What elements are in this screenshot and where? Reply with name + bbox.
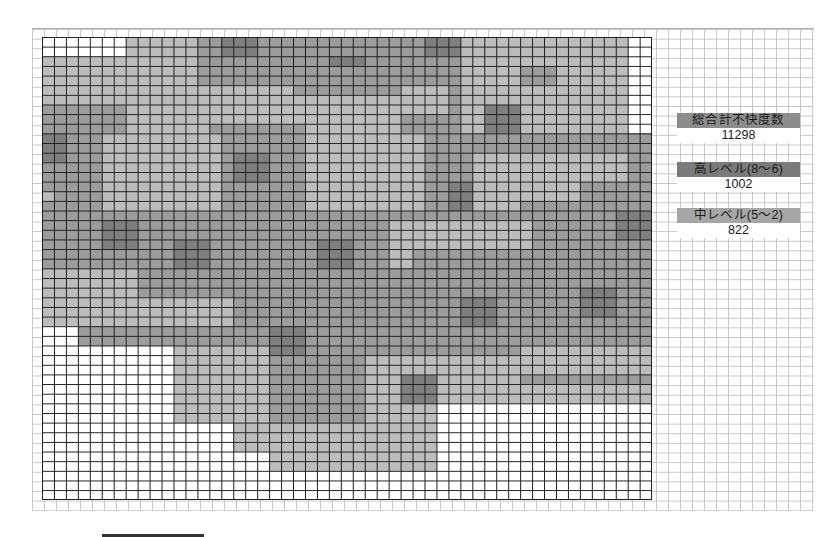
- stat-label-mid: 中レベル(5〜2): [677, 208, 800, 223]
- heatmap-zone: [317, 240, 353, 269]
- heatmap-zone: [401, 85, 449, 114]
- heatmap-zone: [437, 404, 652, 500]
- heatmap-zone: [389, 220, 533, 249]
- heatmap-zone: [102, 220, 138, 249]
- heatmap-zone: [42, 105, 102, 134]
- heatmap-zone: [233, 452, 269, 500]
- heatmap-zone: [42, 37, 126, 56]
- heatmap-zone: [42, 346, 174, 500]
- heatmap-zone: [42, 191, 54, 201]
- stat-label-total: 総合計不快度数: [677, 113, 800, 128]
- heatmap-zone: [126, 85, 210, 133]
- heatmap-zone: [102, 133, 222, 210]
- stat-value-mid: 822: [677, 223, 800, 238]
- heatmap-zone: [401, 375, 437, 404]
- heatmap-zone: [162, 201, 210, 211]
- heatmap-zone: [269, 471, 436, 500]
- stat-high-level: 高レベル(8〜6) 1002: [677, 162, 800, 192]
- heatmap-zone: [174, 423, 234, 500]
- heatmap-zone: [126, 37, 198, 85]
- heatmap-zone: [305, 133, 425, 210]
- discomfort-heatmap: [42, 37, 652, 500]
- stat-total-discomfort: 総合計不快度数 11298: [677, 113, 800, 143]
- stat-value-high: 1002: [677, 177, 800, 192]
- heatmap-zone: [233, 423, 269, 452]
- heatmap-zone: [461, 297, 497, 326]
- heatmap-zone: [42, 56, 126, 104]
- heatmap-zone: [425, 37, 461, 56]
- heatmap-zone: [305, 66, 413, 95]
- stat-label-high: 高レベル(8〜6): [677, 162, 800, 177]
- heatmap-zone: [197, 66, 305, 85]
- heatmap-zone: [628, 37, 652, 133]
- heatmap-zone: [221, 37, 257, 56]
- heatmap-zone: [520, 384, 652, 403]
- heatmap-zone: [473, 153, 521, 211]
- heatmap-zone: [233, 153, 269, 182]
- heatmap-zone: [520, 346, 652, 375]
- heatmap-zone: [425, 133, 473, 181]
- heatmap-zone: [197, 37, 341, 66]
- heatmap-zone: [269, 326, 305, 355]
- stat-mid-level: 中レベル(5〜2) 822: [677, 208, 800, 238]
- heatmap-zone: [389, 249, 413, 268]
- heatmap-zone: [269, 423, 436, 471]
- stat-value-total: 11298: [677, 128, 800, 143]
- heatmap-zone: [42, 297, 233, 326]
- heatmap-zone: [42, 269, 138, 298]
- heatmap-zone: [580, 288, 616, 317]
- heatmap-zone: [520, 66, 556, 85]
- heatmap-zone: [42, 133, 66, 162]
- heatmap-zone: [485, 105, 521, 134]
- heatmap-zone: [42, 326, 78, 345]
- heatmap-zone: [174, 240, 210, 269]
- heatmap-zone: [616, 211, 652, 240]
